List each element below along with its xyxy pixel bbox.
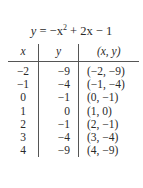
cell-x: 3 [8,131,39,144]
cell-y: −9 [39,144,79,157]
cell-point: (3, −4) [79,131,139,144]
equation-lhs: y [31,24,37,38]
header-x: x [8,44,39,62]
equation-rhs-prefix: −x [50,24,63,38]
cell-point: (−2, −9) [79,62,139,79]
table-header-row: x y (x, y) [8,44,139,62]
cell-y: −1 [39,91,79,104]
cell-x: 2 [8,118,39,131]
equation-rhs-suffix: + 2x − 1 [67,24,112,38]
cell-point: (0, −1) [79,91,139,104]
cell-x: 4 [8,144,39,157]
header-point: (x, y) [79,44,139,62]
table-row: −1 −4 (−1, −4) [8,78,139,91]
table-row: 1 0 (1, 0) [8,105,139,118]
cell-x: −2 [8,62,39,79]
table-row: 2 −1 (2, −1) [8,118,139,131]
equation-title: y = −x2 + 2x − 1 [0,24,143,39]
cell-x: 0 [8,91,39,104]
cell-y: −9 [39,62,79,79]
header-y: y [39,44,79,62]
cell-x: −1 [8,78,39,91]
table-row: 3 −4 (3, −4) [8,131,139,144]
table-row: 0 −1 (0, −1) [8,91,139,104]
cell-y: −4 [39,131,79,144]
cell-point: (2, −1) [79,118,139,131]
table-row: 4 −9 (4, −9) [8,144,139,157]
cell-y: −4 [39,78,79,91]
cell-x: 1 [8,105,39,118]
values-table: x y (x, y) −2 −9 (−2, −9) −1 −4 (−1, −4)… [8,44,139,157]
cell-point: (4, −9) [79,144,139,157]
cell-point: (−1, −4) [79,78,139,91]
cell-point: (1, 0) [79,105,139,118]
cell-y: 0 [39,105,79,118]
cell-y: −1 [39,118,79,131]
table-row: −2 −9 (−2, −9) [8,62,139,79]
